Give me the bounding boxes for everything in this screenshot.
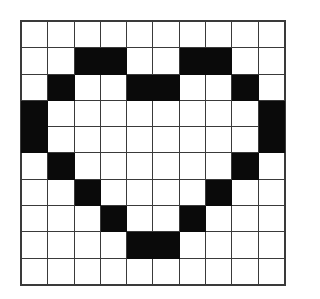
pixel-cell-empty[interactable]: [153, 48, 179, 74]
pixel-cell-filled[interactable]: [153, 74, 179, 100]
pixel-cell-empty[interactable]: [153, 206, 179, 232]
pixel-cell-empty[interactable]: [127, 100, 153, 126]
pixel-cell-empty[interactable]: [48, 232, 74, 258]
pixel-cell-filled[interactable]: [100, 48, 126, 74]
pixel-cell-filled[interactable]: [153, 232, 179, 258]
pixel-cell-empty[interactable]: [258, 232, 284, 258]
pixel-cell-empty[interactable]: [100, 100, 126, 126]
pixel-cell-empty[interactable]: [179, 22, 205, 48]
pixel-cell-empty[interactable]: [179, 127, 205, 153]
pixel-cell-empty[interactable]: [179, 179, 205, 205]
pixel-cell-empty[interactable]: [179, 232, 205, 258]
pixel-cell-filled[interactable]: [127, 74, 153, 100]
pixel-cell-empty[interactable]: [100, 22, 126, 48]
pixel-cell-empty[interactable]: [206, 127, 232, 153]
pixel-cell-empty[interactable]: [22, 232, 48, 258]
pixel-cell-empty[interactable]: [127, 179, 153, 205]
pixel-cell-empty[interactable]: [232, 258, 258, 284]
pixel-cell-empty[interactable]: [48, 127, 74, 153]
pixel-cell-empty[interactable]: [127, 153, 153, 179]
pixel-cell-empty[interactable]: [153, 127, 179, 153]
pixel-cell-empty[interactable]: [206, 153, 232, 179]
pixel-cell-filled[interactable]: [179, 48, 205, 74]
pixel-cell-filled[interactable]: [206, 179, 232, 205]
pixel-cell-empty[interactable]: [100, 258, 126, 284]
pixel-cell-empty[interactable]: [100, 179, 126, 205]
pixel-cell-empty[interactable]: [232, 179, 258, 205]
pixel-cell-empty[interactable]: [153, 153, 179, 179]
pixel-cell-empty[interactable]: [22, 48, 48, 74]
pixel-cell-empty[interactable]: [258, 48, 284, 74]
pixel-cell-empty[interactable]: [206, 100, 232, 126]
pixel-cell-empty[interactable]: [258, 153, 284, 179]
pixel-cell-empty[interactable]: [74, 100, 100, 126]
pixel-cell-filled[interactable]: [206, 48, 232, 74]
pixel-cell-empty[interactable]: [127, 127, 153, 153]
pixel-cell-empty[interactable]: [232, 22, 258, 48]
pixel-cell-empty[interactable]: [74, 74, 100, 100]
pixel-cell-filled[interactable]: [74, 48, 100, 74]
pixel-cell-empty[interactable]: [100, 232, 126, 258]
pixel-cell-empty[interactable]: [206, 22, 232, 48]
pixel-cell-filled[interactable]: [232, 153, 258, 179]
pixel-cell-empty[interactable]: [206, 206, 232, 232]
pixel-cell-empty[interactable]: [48, 48, 74, 74]
pixel-cell-filled[interactable]: [48, 153, 74, 179]
pixel-cell-empty[interactable]: [179, 74, 205, 100]
pixel-cell-empty[interactable]: [153, 100, 179, 126]
pixel-cell-filled[interactable]: [179, 206, 205, 232]
pixel-cell-empty[interactable]: [74, 153, 100, 179]
pixel-cell-filled[interactable]: [232, 74, 258, 100]
pixel-cell-empty[interactable]: [232, 232, 258, 258]
pixel-cell-filled[interactable]: [258, 100, 284, 126]
pixel-cell-empty[interactable]: [22, 22, 48, 48]
pixel-cell-empty[interactable]: [74, 127, 100, 153]
pixel-cell-empty[interactable]: [206, 74, 232, 100]
pixel-cell-empty[interactable]: [74, 22, 100, 48]
pixel-cell-empty[interactable]: [153, 22, 179, 48]
pixel-cell-empty[interactable]: [22, 74, 48, 100]
pixel-cell-empty[interactable]: [74, 258, 100, 284]
pixel-cell-empty[interactable]: [258, 179, 284, 205]
pixel-cell-empty[interactable]: [153, 258, 179, 284]
pixel-cell-empty[interactable]: [179, 100, 205, 126]
pixel-cell-empty[interactable]: [127, 258, 153, 284]
pixel-cell-empty[interactable]: [22, 258, 48, 284]
pixel-cell-empty[interactable]: [232, 48, 258, 74]
pixel-cell-empty[interactable]: [179, 153, 205, 179]
pixel-cell-empty[interactable]: [74, 206, 100, 232]
pixel-cell-filled[interactable]: [258, 127, 284, 153]
pixel-cell-empty[interactable]: [258, 22, 284, 48]
pixel-cell-empty[interactable]: [153, 179, 179, 205]
pixel-cell-empty[interactable]: [258, 258, 284, 284]
pixel-cell-empty[interactable]: [206, 258, 232, 284]
pixel-cell-empty[interactable]: [258, 74, 284, 100]
pixel-cell-empty[interactable]: [127, 206, 153, 232]
pixel-cell-empty[interactable]: [258, 206, 284, 232]
pixel-cell-filled[interactable]: [22, 100, 48, 126]
pixel-cell-empty[interactable]: [74, 232, 100, 258]
pixel-cell-filled[interactable]: [48, 74, 74, 100]
pixel-cell-empty[interactable]: [48, 258, 74, 284]
pixel-cell-empty[interactable]: [48, 206, 74, 232]
pixel-cell-filled[interactable]: [127, 232, 153, 258]
pixel-cell-empty[interactable]: [48, 22, 74, 48]
pixel-cell-empty[interactable]: [127, 22, 153, 48]
pixel-cell-filled[interactable]: [22, 127, 48, 153]
pixel-cell-empty[interactable]: [48, 100, 74, 126]
pixel-cell-empty[interactable]: [232, 127, 258, 153]
pixel-cell-empty[interactable]: [179, 258, 205, 284]
pixel-cell-empty[interactable]: [232, 100, 258, 126]
pixel-cell-empty[interactable]: [22, 179, 48, 205]
pixel-cell-empty[interactable]: [232, 206, 258, 232]
pixel-cell-empty[interactable]: [22, 153, 48, 179]
pixel-cell-empty[interactable]: [206, 232, 232, 258]
pixel-cell-filled[interactable]: [74, 179, 100, 205]
pixel-cell-empty[interactable]: [48, 179, 74, 205]
pixel-cell-empty[interactable]: [100, 153, 126, 179]
pixel-cell-filled[interactable]: [100, 206, 126, 232]
pixel-cell-empty[interactable]: [100, 127, 126, 153]
pixel-cell-empty[interactable]: [22, 206, 48, 232]
pixel-cell-empty[interactable]: [127, 48, 153, 74]
pixel-cell-empty[interactable]: [100, 74, 126, 100]
